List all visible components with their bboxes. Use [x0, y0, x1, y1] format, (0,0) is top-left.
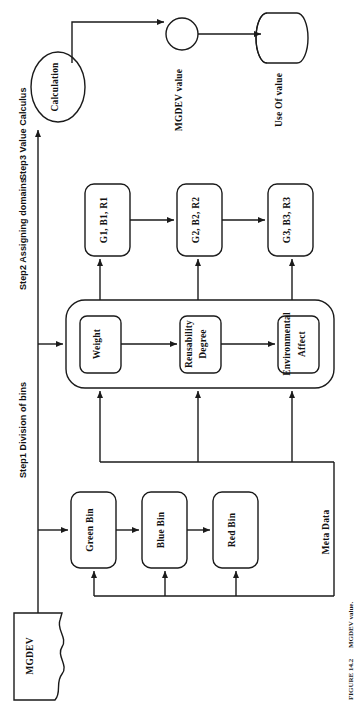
environmental-label-line2: Affect	[297, 330, 307, 357]
step3-label: Step3 Value Calculus	[18, 87, 28, 180]
value-3-label: G3, B3, R3	[282, 197, 292, 243]
environmental-label-line1: Environmental	[282, 312, 292, 376]
flowchart-diagram: Step1 Division of bins Step2 Assigning d…	[0, 0, 361, 708]
blue-bin-label: Blue Bin	[156, 511, 166, 548]
source-document-label: MGDEV	[25, 637, 35, 674]
figure-caption: FIGURE 14.2	[347, 658, 355, 700]
source-document-shape	[14, 613, 64, 700]
edge-calculation-to-mgdev-value	[72, 22, 164, 63]
calculation-label: Calculation	[50, 62, 60, 112]
step1-label: Step1 Division of bins	[18, 382, 28, 478]
value-1-label: G1, B1, R1	[99, 197, 109, 243]
value-2-label: G2, B2, R2	[191, 197, 201, 243]
mgdev-value-label: MGDEV value	[174, 69, 184, 131]
use-of-value-shape	[256, 13, 308, 63]
weight-label: Weight	[92, 328, 102, 359]
red-bin-label: Red Bin	[227, 512, 237, 547]
green-bin-label: Green Bin	[85, 508, 95, 552]
step2-label: Step2 Assigning domains	[18, 178, 28, 290]
figure-caption-detail: MGDEV value.	[347, 602, 355, 648]
reusability-label-line1: Reusability	[184, 320, 194, 368]
use-of-value-label: Use Of value	[274, 73, 284, 127]
figure-canvas: Step1 Division of bins Step2 Assigning d…	[0, 0, 361, 708]
mgdev-value-shape	[166, 18, 198, 50]
reusability-label-line2: Degree	[198, 329, 208, 359]
meta-data-label: Meta Data	[321, 510, 331, 555]
